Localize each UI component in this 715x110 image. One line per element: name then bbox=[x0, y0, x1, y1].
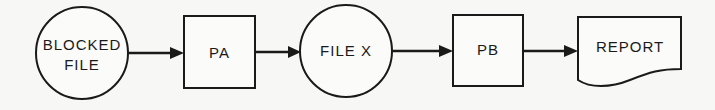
node-label: PA bbox=[209, 44, 230, 61]
node-blocked-file: BLOCKED FILE bbox=[36, 7, 128, 99]
arrow-head-icon bbox=[564, 45, 578, 57]
edge-pa-to-file-x bbox=[255, 46, 301, 58]
edge-file-x-to-pb bbox=[392, 45, 453, 57]
node-label: REPORT bbox=[596, 38, 664, 55]
node-label-line1: BLOCKED bbox=[43, 36, 122, 53]
edge-blocked-file-to-pa bbox=[128, 47, 184, 59]
arrow-head-icon bbox=[170, 47, 184, 59]
arrow-head-icon bbox=[439, 45, 453, 57]
node-pa: PA bbox=[184, 16, 255, 88]
node-report: REPORT bbox=[578, 17, 681, 86]
node-pb: PB bbox=[453, 15, 523, 86]
flowchart-diagram: BLOCKED FILE PA FILE X PB REPORT bbox=[0, 0, 715, 110]
node-file-x: FILE X bbox=[300, 5, 392, 97]
edge-pb-to-report bbox=[523, 45, 578, 57]
node-label-line2: FILE bbox=[64, 56, 100, 73]
node-label: PB bbox=[477, 41, 499, 58]
node-label: FILE X bbox=[320, 42, 372, 59]
circle-shape bbox=[36, 7, 128, 99]
